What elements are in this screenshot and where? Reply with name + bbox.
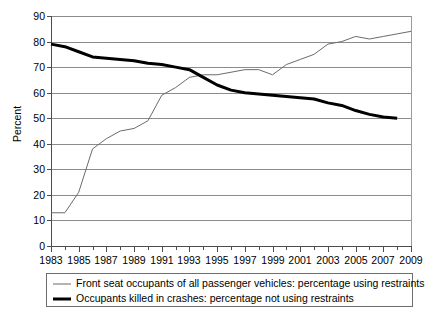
x-tick-mark-minor <box>259 247 260 250</box>
x-tick-mark-major <box>328 247 329 252</box>
legend-entry-killed-no-restraint: Occupants killed in crashes: percentage … <box>53 291 354 306</box>
y-tick-label: 30 <box>33 164 45 175</box>
legend-line-icon-thin <box>53 279 71 289</box>
x-tick-label: 2009 <box>399 255 422 266</box>
x-tick-mark-major <box>383 247 384 252</box>
x-tick-mark-minor <box>176 247 177 250</box>
x-tick-label: 2001 <box>288 255 311 266</box>
y-tick-label: 60 <box>33 88 45 99</box>
y-tick-label: 90 <box>33 11 45 22</box>
x-tick-mark-major <box>356 247 357 252</box>
x-tick-mark-minor <box>65 247 66 250</box>
x-tick-label: 1993 <box>177 255 200 266</box>
x-tick-mark-major <box>106 247 107 252</box>
x-tick-mark-minor <box>314 247 315 250</box>
y-tick-label: 10 <box>33 215 45 226</box>
legend-label: Front seat occupants of all passenger ve… <box>76 278 424 289</box>
x-tick-mark-minor <box>148 247 149 250</box>
y-tick-label: 0 <box>39 241 45 252</box>
x-tick-mark-major <box>245 247 246 252</box>
x-tick-mark-major <box>189 247 190 252</box>
x-tick-label: 1987 <box>94 255 117 266</box>
x-tick-label: 2003 <box>316 255 339 266</box>
x-tick-mark-minor <box>203 247 204 250</box>
legend-line-icon-thick <box>53 294 71 304</box>
x-tick-mark-minor <box>286 247 287 250</box>
y-tick-label: 20 <box>33 190 45 201</box>
chart-figure: Percent 0102030405060708090 198319851987… <box>0 0 427 313</box>
x-tick-mark-major <box>411 247 412 252</box>
chart-legend: Front seat occupants of all passenger ve… <box>46 273 413 307</box>
y-tick-label: 40 <box>33 139 45 150</box>
x-tick-label: 2007 <box>371 255 394 266</box>
x-tick-label: 2005 <box>344 255 367 266</box>
x-tick-mark-major <box>273 247 274 252</box>
x-tick-mark-major <box>134 247 135 252</box>
x-tick-label: 1989 <box>122 255 145 266</box>
series-line-2 <box>51 44 397 118</box>
x-tick-mark-major <box>162 247 163 252</box>
x-tick-mark-major <box>300 247 301 252</box>
x-tick-label: 1999 <box>261 255 284 266</box>
x-tick-label: 1985 <box>67 255 90 266</box>
x-tick-mark-minor <box>231 247 232 250</box>
x-tick-mark-minor <box>93 247 94 250</box>
y-tick-label: 50 <box>33 113 45 124</box>
plot-area: 0102030405060708090 19831985198719891991… <box>51 16 412 247</box>
x-tick-label: 1997 <box>233 255 256 266</box>
y-axis-title: Percent <box>11 94 23 154</box>
legend-entry-restraint-use: Front seat occupants of all passenger ve… <box>53 276 424 291</box>
x-tick-label: 1991 <box>150 255 173 266</box>
y-tick-label: 70 <box>33 62 45 73</box>
series-container <box>51 16 412 247</box>
x-tick-mark-major <box>217 247 218 252</box>
x-tick-mark-major <box>79 247 80 252</box>
x-tick-mark-minor <box>397 247 398 250</box>
x-tick-mark-minor <box>120 247 121 250</box>
legend-label: Occupants killed in crashes: percentage … <box>76 293 354 304</box>
x-tick-label: 1983 <box>39 255 62 266</box>
x-tick-label: 1995 <box>205 255 228 266</box>
y-tick-label: 80 <box>33 37 45 48</box>
x-tick-mark-minor <box>342 247 343 250</box>
x-tick-mark-major <box>51 247 52 252</box>
x-tick-mark-minor <box>369 247 370 250</box>
